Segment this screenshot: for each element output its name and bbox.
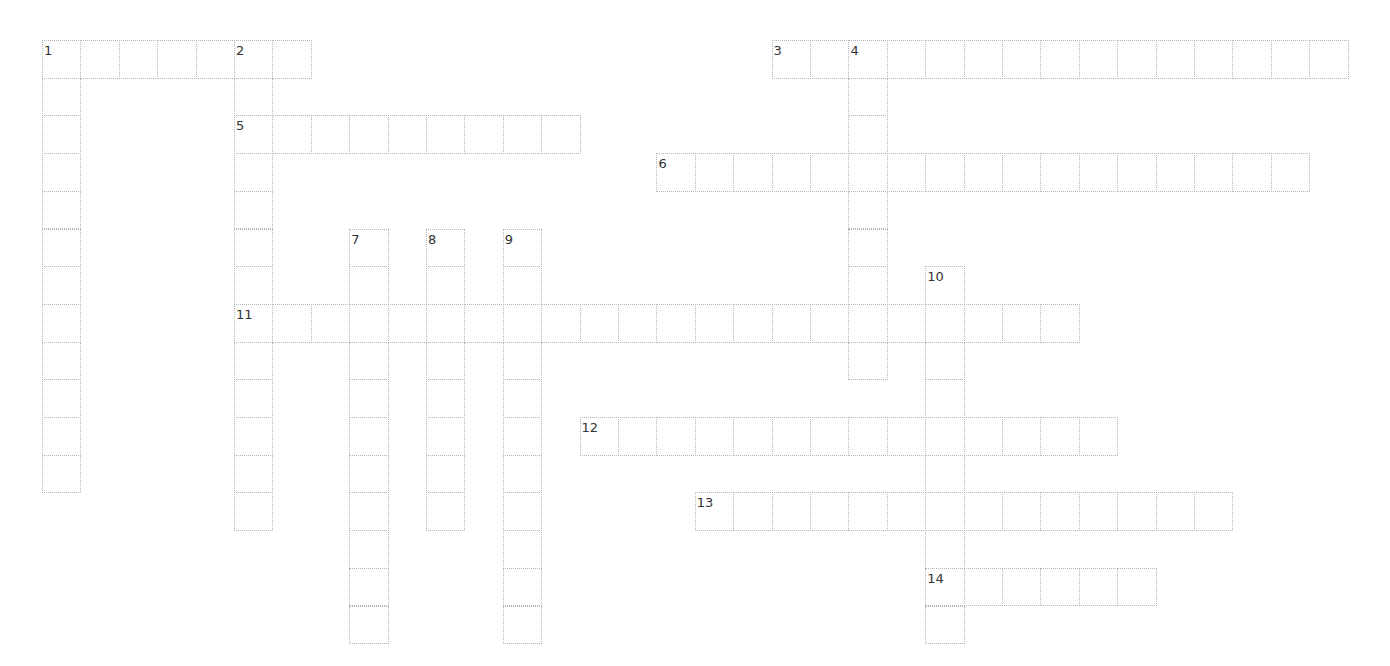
crossword-cell[interactable] bbox=[1117, 568, 1156, 607]
crossword-cell[interactable] bbox=[503, 568, 542, 607]
crossword-cell[interactable] bbox=[925, 530, 964, 569]
crossword-cell[interactable] bbox=[964, 568, 1003, 607]
crossword-cell[interactable] bbox=[848, 266, 887, 305]
crossword-cell[interactable] bbox=[1194, 153, 1233, 192]
crossword-cell[interactable] bbox=[42, 342, 81, 381]
crossword-cell[interactable] bbox=[503, 417, 542, 456]
crossword-cell[interactable] bbox=[580, 304, 619, 343]
crossword-cell[interactable] bbox=[772, 417, 811, 456]
crossword-cell[interactable] bbox=[925, 342, 964, 381]
crossword-cell[interactable] bbox=[1002, 568, 1041, 607]
crossword-cell[interactable] bbox=[1040, 417, 1079, 456]
crossword-cell[interactable] bbox=[1194, 40, 1233, 79]
crossword-cell[interactable] bbox=[42, 379, 81, 418]
crossword-cell[interactable] bbox=[541, 115, 580, 154]
crossword-cell[interactable] bbox=[42, 229, 81, 268]
crossword-cell[interactable] bbox=[1040, 492, 1079, 531]
crossword-cell[interactable] bbox=[42, 417, 81, 456]
crossword-cell[interactable] bbox=[503, 115, 542, 154]
crossword-cell[interactable] bbox=[42, 153, 81, 192]
crossword-cell[interactable]: 10 bbox=[925, 266, 964, 305]
crossword-cell[interactable] bbox=[503, 266, 542, 305]
crossword-cell[interactable] bbox=[234, 492, 273, 531]
crossword-cell[interactable] bbox=[234, 78, 273, 117]
crossword-cell[interactable] bbox=[426, 492, 465, 531]
crossword-cell[interactable]: 3 bbox=[772, 40, 811, 79]
crossword-cell[interactable] bbox=[42, 455, 81, 494]
crossword-cell[interactable] bbox=[272, 40, 311, 79]
crossword-cell[interactable] bbox=[349, 266, 388, 305]
crossword-cell[interactable] bbox=[426, 455, 465, 494]
crossword-cell[interactable]: 13 bbox=[695, 492, 734, 531]
crossword-cell[interactable] bbox=[1271, 153, 1310, 192]
crossword-cell[interactable] bbox=[887, 153, 926, 192]
crossword-cell[interactable] bbox=[196, 40, 235, 79]
crossword-cell[interactable] bbox=[848, 417, 887, 456]
crossword-cell[interactable] bbox=[503, 606, 542, 645]
crossword-cell[interactable] bbox=[887, 492, 926, 531]
crossword-cell[interactable] bbox=[964, 492, 1003, 531]
crossword-cell[interactable] bbox=[925, 417, 964, 456]
crossword-cell[interactable] bbox=[426, 342, 465, 381]
crossword-cell[interactable] bbox=[1194, 492, 1233, 531]
crossword-cell[interactable] bbox=[388, 304, 427, 343]
crossword-cell[interactable] bbox=[1079, 492, 1118, 531]
crossword-cell[interactable] bbox=[272, 304, 311, 343]
crossword-cell[interactable] bbox=[311, 115, 350, 154]
crossword-cell[interactable] bbox=[964, 417, 1003, 456]
crossword-cell[interactable] bbox=[964, 153, 1003, 192]
crossword-cell[interactable] bbox=[234, 455, 273, 494]
crossword-cell[interactable]: 9 bbox=[503, 229, 542, 268]
crossword-cell[interactable] bbox=[1040, 568, 1079, 607]
crossword-cell[interactable] bbox=[1079, 568, 1118, 607]
crossword-cell[interactable] bbox=[503, 342, 542, 381]
crossword-cell[interactable] bbox=[426, 304, 465, 343]
crossword-cell[interactable] bbox=[810, 304, 849, 343]
crossword-cell[interactable] bbox=[349, 379, 388, 418]
crossword-cell[interactable] bbox=[349, 530, 388, 569]
crossword-cell[interactable] bbox=[695, 417, 734, 456]
crossword-cell[interactable] bbox=[733, 492, 772, 531]
crossword-cell[interactable] bbox=[848, 191, 887, 230]
crossword-cell[interactable] bbox=[234, 229, 273, 268]
crossword-cell[interactable] bbox=[887, 304, 926, 343]
crossword-cell[interactable] bbox=[848, 342, 887, 381]
crossword-cell[interactable] bbox=[733, 417, 772, 456]
crossword-cell[interactable] bbox=[349, 417, 388, 456]
crossword-cell[interactable] bbox=[503, 492, 542, 531]
crossword-cell[interactable] bbox=[695, 304, 734, 343]
crossword-cell[interactable] bbox=[618, 304, 657, 343]
crossword-cell[interactable] bbox=[541, 304, 580, 343]
crossword-cell[interactable] bbox=[1040, 153, 1079, 192]
crossword-cell[interactable]: 14 bbox=[925, 568, 964, 607]
crossword-cell[interactable] bbox=[1156, 40, 1195, 79]
crossword-cell[interactable] bbox=[234, 266, 273, 305]
crossword-cell[interactable] bbox=[1117, 153, 1156, 192]
crossword-cell[interactable] bbox=[695, 153, 734, 192]
crossword-cell[interactable] bbox=[42, 266, 81, 305]
crossword-cell[interactable] bbox=[1002, 153, 1041, 192]
crossword-cell[interactable] bbox=[234, 191, 273, 230]
crossword-cell[interactable] bbox=[848, 115, 887, 154]
crossword-cell[interactable] bbox=[925, 455, 964, 494]
crossword-cell[interactable] bbox=[349, 304, 388, 343]
crossword-cell[interactable] bbox=[1002, 417, 1041, 456]
crossword-cell[interactable] bbox=[887, 40, 926, 79]
crossword-cell[interactable] bbox=[119, 40, 158, 79]
crossword-cell[interactable] bbox=[157, 40, 196, 79]
crossword-cell[interactable] bbox=[426, 417, 465, 456]
crossword-cell[interactable] bbox=[42, 191, 81, 230]
crossword-cell[interactable]: 2 bbox=[234, 40, 273, 79]
crossword-cell[interactable]: 12 bbox=[580, 417, 619, 456]
crossword-cell[interactable] bbox=[618, 417, 657, 456]
crossword-cell[interactable] bbox=[272, 115, 311, 154]
crossword-cell[interactable] bbox=[733, 304, 772, 343]
crossword-cell[interactable] bbox=[810, 417, 849, 456]
crossword-cell[interactable] bbox=[234, 153, 273, 192]
crossword-cell[interactable] bbox=[1156, 153, 1195, 192]
crossword-cell[interactable] bbox=[1079, 40, 1118, 79]
crossword-cell[interactable] bbox=[810, 153, 849, 192]
crossword-cell[interactable] bbox=[234, 379, 273, 418]
crossword-cell[interactable] bbox=[1002, 304, 1041, 343]
crossword-cell[interactable] bbox=[1117, 40, 1156, 79]
